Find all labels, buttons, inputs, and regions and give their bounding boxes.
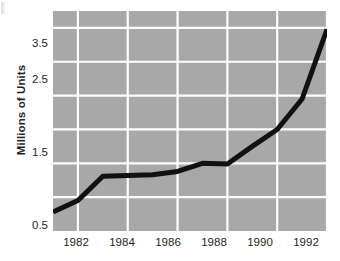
plot-svg: [53, 11, 327, 231]
x-tick-label-1984: 1984: [99, 236, 145, 248]
plot-area: [53, 11, 327, 231]
x-tick-label-1988: 1988: [191, 236, 237, 248]
chart-figure: Millions of Units 0.5 1.5 2.5 3.5 1982 1…: [0, 0, 340, 261]
crop-artifact: [1, 2, 5, 14]
horizontal-gridlines: [53, 28, 327, 197]
y-axis-title: Millions of Units: [15, 40, 27, 180]
x-tick-label-1990: 1990: [237, 236, 283, 248]
y-tick-label-2: 2.5: [14, 73, 48, 85]
y-tick-label-0: 0.5: [14, 219, 48, 231]
data-series-line: [53, 29, 327, 212]
y-tick-label-1: 1.5: [14, 146, 48, 158]
x-tick-label-1986: 1986: [145, 236, 191, 248]
x-tick-label-1982: 1982: [53, 236, 99, 248]
x-tick-label-1992: 1992: [283, 236, 329, 248]
y-tick-label-3: 3.5: [14, 37, 48, 49]
